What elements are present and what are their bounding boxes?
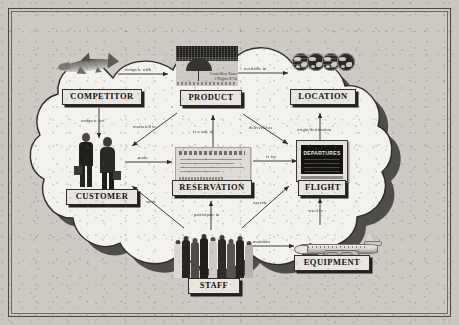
entity-label-staff: STAFF: [195, 280, 233, 291]
entity-label-customer: CUSTOMER: [73, 191, 131, 202]
departures-board-photo: DEPARTURES: [296, 140, 348, 184]
entity-label-reservation: RESERVATION: [179, 182, 245, 193]
entity-label-equipment: EQUIPMENT: [301, 257, 363, 268]
entity-label-flight: FLIGHT: [305, 182, 339, 193]
edge-label-marketed-to: marketed to: [133, 124, 156, 129]
brochure-caption: Costa Rica Tours3 Nights $750: [198, 71, 237, 81]
globes-row: [292, 53, 356, 73]
edge-label-available-in: available in: [244, 66, 267, 71]
business-couple-photo: [74, 133, 122, 189]
edge-label-is-for: is for: [266, 154, 276, 159]
entity-label-competitor: COMPETITOR: [69, 91, 135, 102]
edge-label-make: make: [138, 155, 148, 160]
entity-box-product[interactable]: PRODUCT: [180, 90, 242, 106]
edge-label-origin-destination: origin/destination: [297, 127, 331, 132]
edge-label-compete-with: compete with: [125, 67, 151, 72]
shark-illustration: [58, 51, 126, 81]
edge-label-delivered-as: delivered as: [249, 125, 272, 130]
edge-label-participate-in: participate in: [194, 212, 220, 217]
entity-box-flight[interactable]: FLIGHT: [298, 180, 346, 196]
edge-label-maintain: maintain: [253, 239, 270, 244]
entity-box-location[interactable]: LOCATION: [290, 89, 356, 105]
entity-box-customer[interactable]: CUSTOMER: [66, 189, 138, 205]
edge-label-serve: serve: [146, 199, 156, 204]
edge-label-compete-for: compete for: [81, 118, 104, 123]
edge-label-operate: operate: [253, 200, 267, 205]
entity-label-location: LOCATION: [297, 91, 349, 102]
entity-box-equipment[interactable]: EQUIPMENT: [294, 255, 370, 271]
edge-label-is-a-sale-of: is a sale of: [193, 129, 214, 134]
departures-screen-text: DEPARTURES: [301, 150, 343, 156]
entity-label-product: PRODUCT: [187, 92, 235, 103]
entity-box-reservation[interactable]: RESERVATION: [172, 180, 252, 196]
staff-group-photo: [172, 228, 256, 278]
diagram-page: Costa Rica Tours3 Nights $750: [0, 0, 459, 325]
edge-label-used-in: used in: [309, 208, 323, 213]
brochure-photo: Costa Rica Tours3 Nights $750: [176, 46, 238, 88]
entity-box-staff[interactable]: STAFF: [188, 278, 240, 294]
entity-box-competitor[interactable]: COMPETITOR: [62, 89, 142, 105]
